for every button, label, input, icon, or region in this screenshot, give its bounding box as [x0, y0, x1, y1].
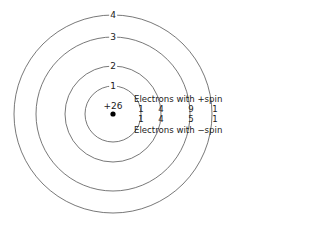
shell-4-label: 4	[109, 10, 117, 20]
legend-minus-spin: Electrons with −spin	[134, 125, 222, 135]
legend-plus-spin: Electrons with +spin	[134, 94, 222, 104]
shell-3-label: 3	[109, 32, 117, 42]
plus-spin-shell-3: 9	[188, 104, 193, 114]
minus-spin-shell-2: 4	[158, 114, 163, 124]
nucleus-dot	[110, 111, 115, 116]
shell-2-label: 2	[109, 61, 117, 71]
plus-spin-shell-1: 1	[138, 104, 143, 114]
shell-1-label: 1	[109, 81, 117, 91]
minus-spin-shell-1: 1	[138, 114, 143, 124]
plus-spin-shell-4: 1	[212, 104, 217, 114]
minus-spin-shell-4: 1	[212, 114, 217, 124]
nucleus-charge: +26	[104, 101, 123, 111]
minus-spin-shell-3: 5	[188, 114, 193, 124]
plus-spin-shell-2: 4	[158, 104, 163, 114]
